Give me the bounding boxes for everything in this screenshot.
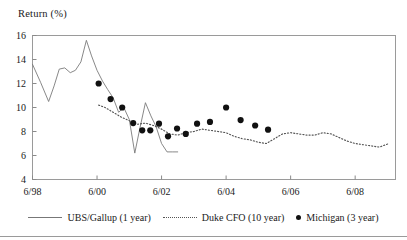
series-ubs-gallup-line (33, 40, 178, 153)
y-tick-label: 4 (8, 174, 26, 185)
y-tick-label: 16 (8, 30, 26, 41)
x-tick-marks (33, 176, 356, 180)
x-tick-label: 6/06 (271, 186, 311, 197)
michigan-data-point (119, 104, 125, 110)
chart-legend: UBS/Gallup (1 year) Duke CFO (10 year) M… (0, 208, 407, 226)
legend-label-michigan: Michigan (3 year) (306, 212, 378, 223)
x-tick-label: 6/98 (13, 186, 53, 197)
series-michigan-markers (96, 80, 272, 139)
y-tick-label: 12 (8, 78, 26, 89)
michigan-data-point (238, 117, 244, 123)
x-tick-label: 6/00 (77, 186, 117, 197)
solid-line-swatch-icon (28, 217, 62, 218)
michigan-data-point (165, 133, 171, 139)
michigan-data-point (96, 80, 102, 86)
plot-frame (33, 36, 396, 180)
michigan-data-point (223, 104, 229, 110)
y-tick-label: 8 (8, 126, 26, 137)
michigan-data-point (130, 120, 136, 126)
y-tick-label: 10 (8, 102, 26, 113)
michigan-data-point (174, 125, 180, 131)
dotted-line-swatch-icon (163, 217, 197, 218)
y-tick-label: 14 (8, 54, 26, 65)
legend-label-duke-cfo: Duke CFO (10 year) (202, 212, 284, 223)
y-tick-label: 6 (8, 150, 26, 161)
michigan-data-point (194, 121, 200, 127)
legend-label-ubs-gallup: UBS/Gallup (1 year) (67, 212, 150, 223)
x-tick-label: 6/02 (142, 186, 182, 197)
legend-item-duke-cfo: Duke CFO (10 year) (163, 212, 284, 223)
footer-rule (0, 236, 407, 237)
chart-figure: Return (%) 46810121416 6/986/006/026/046… (0, 0, 407, 240)
x-tick-label: 6/04 (206, 186, 246, 197)
legend-item-ubs-gallup: UBS/Gallup (1 year) (28, 212, 150, 223)
y-tick-marks (33, 36, 37, 180)
michigan-data-point (147, 127, 153, 133)
michigan-data-point (207, 119, 213, 125)
michigan-data-point (183, 131, 189, 137)
michigan-data-point (252, 122, 258, 128)
x-tick-label: 6/08 (335, 186, 375, 197)
michigan-data-point (156, 121, 162, 127)
dot-swatch-icon (296, 215, 301, 220)
michigan-data-point (265, 127, 271, 133)
michigan-data-point (139, 127, 145, 133)
legend-item-michigan: Michigan (3 year) (296, 212, 378, 223)
michigan-data-point (107, 96, 113, 102)
plot-area (0, 0, 407, 240)
series-duke-cfo-line (99, 105, 389, 147)
